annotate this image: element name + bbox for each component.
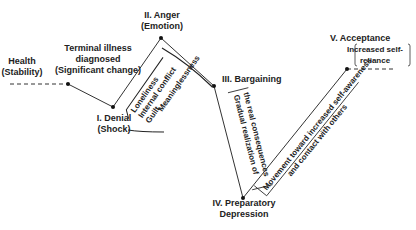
svg-text:Increased self-: Increased self- [347, 45, 403, 54]
health-sub: (Stability) [1, 67, 42, 77]
depression-label: IV. Preparatory [212, 198, 275, 208]
trigger-line2: diagnosed [75, 54, 120, 64]
node-denial [111, 105, 115, 109]
anger-sub: (Emotion) [141, 21, 183, 31]
brace-bottom [128, 130, 164, 132]
node-anger [159, 36, 163, 40]
denial-sub: (Shock) [97, 124, 130, 134]
acceptance-note: Increased self- reliance [347, 44, 410, 66]
trigger-line3: (Significant change) [55, 65, 141, 75]
realization-note: Gradual realization of the real conseque… [228, 87, 274, 189]
bargaining-label: III. Bargaining [222, 74, 282, 84]
grief-stages-diagram: Health (Stability) Terminal illness diag… [0, 0, 416, 230]
anger-label: II. Anger [144, 10, 180, 20]
diagram-canvas: Health (Stability) Terminal illness diag… [0, 0, 416, 230]
trigger-line1: Terminal illness [64, 43, 131, 53]
node-acceptance [345, 67, 349, 71]
node-bargaining [212, 84, 216, 88]
health-label: Health [8, 56, 36, 66]
denial-label: I. Denial [97, 113, 132, 123]
depression-sub: Depression [219, 209, 268, 219]
svg-text:and contact with others: and contact with others [286, 102, 350, 178]
node-diagnosis [66, 82, 70, 86]
acceptance-label: V. Acceptance [330, 33, 390, 43]
